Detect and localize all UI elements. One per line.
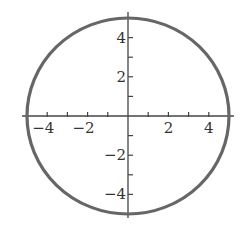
x-tick-label: −4 — [32, 119, 54, 137]
x-tick-label: 2 — [164, 119, 174, 137]
y-tick-label: −4 — [104, 185, 126, 203]
x-tick-label: −2 — [73, 119, 95, 137]
x-tick-label: 4 — [204, 119, 214, 137]
y-tick-label: 2 — [116, 68, 126, 86]
axes — [22, 12, 234, 218]
y-tick-label: −2 — [104, 146, 126, 164]
y-tick-label: 4 — [116, 29, 126, 47]
circle-chart: −4−22442−2−4 — [0, 0, 246, 226]
